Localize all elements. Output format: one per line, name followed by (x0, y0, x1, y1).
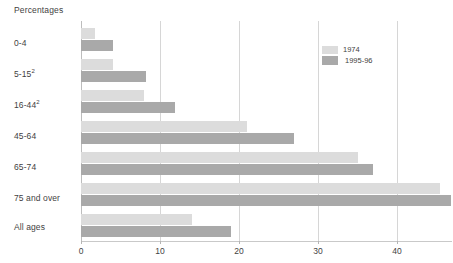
tickmark-20 (239, 241, 240, 244)
chart-title: Percentages (14, 5, 63, 15)
xtick-label-40: 40 (392, 246, 401, 256)
bar-group-75-and-over (81, 183, 451, 207)
bar-all-ages-1995-96 (81, 226, 231, 237)
category-label-75-and-over: 75 and over (14, 193, 60, 203)
bar-5-15-1995-96 (81, 71, 146, 82)
bar-45-64-1974 (81, 121, 247, 132)
category-label-0-4: 0-4 (14, 38, 27, 48)
bar-5-15-1974 (81, 59, 113, 70)
legend-label-1995-96: 1995-96 (345, 56, 373, 66)
bar-65-74-1974 (81, 152, 358, 163)
legend-label-1974: 1974 (343, 45, 360, 55)
bar-chart: Percentages (0, 0, 453, 263)
bar-all-ages-1974 (81, 214, 192, 225)
tickmark-40 (397, 241, 398, 244)
category-label-65-74: 65-74 (14, 162, 36, 172)
xtick-label-30: 30 (313, 246, 322, 256)
plot-area (81, 21, 451, 241)
bar-0-4-1974 (81, 28, 95, 39)
bar-75-and-over-1995-96 (81, 195, 451, 206)
bar-16-44-1995-96 (81, 102, 175, 113)
bar-45-64-1995-96 (81, 133, 294, 144)
tickmark-10 (160, 241, 161, 244)
category-label-16-44: 16-442 (14, 100, 40, 110)
bar-16-44-1974 (81, 90, 144, 101)
bar-65-74-1995-96 (81, 164, 373, 175)
tickmark-0 (81, 241, 82, 244)
bar-group-16-44 (81, 90, 451, 114)
xtick-label-20: 20 (234, 246, 243, 256)
category-label-5-15: 5-152 (14, 69, 35, 79)
category-label-all-ages: All ages (14, 222, 45, 232)
xtick-label-0: 0 (79, 246, 84, 256)
tickmark-30 (318, 241, 319, 244)
xtick-label-10: 10 (155, 246, 164, 256)
bar-0-4-1995-96 (81, 40, 113, 51)
legend-swatch-1995-96-icon (322, 56, 338, 65)
bar-group-all-ages (81, 214, 451, 238)
bar-group-45-64 (81, 121, 451, 145)
bar-group-65-74 (81, 152, 451, 176)
bar-group-5-15 (81, 59, 451, 83)
bar-group-0-4 (81, 28, 451, 52)
category-label-45-64: 45-64 (14, 131, 36, 141)
bar-75-and-over-1974 (81, 183, 440, 194)
legend-swatch-1974-icon (322, 46, 338, 54)
